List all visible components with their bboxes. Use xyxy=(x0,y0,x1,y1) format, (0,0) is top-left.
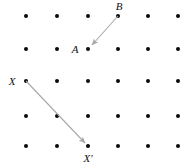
lattice-dot xyxy=(176,144,180,148)
vector-b-to-a xyxy=(92,16,118,45)
lattice-dot xyxy=(176,79,180,83)
lattice-dot xyxy=(146,79,150,83)
vector-x-to-xprime xyxy=(26,81,85,143)
lattice-dot xyxy=(24,114,28,118)
lattice-translation-figure: B A X X′ xyxy=(0,0,196,166)
lattice-dot xyxy=(86,114,90,118)
lattice-row xyxy=(24,144,180,148)
lattice-dot xyxy=(116,144,120,148)
lattice-dot xyxy=(146,114,150,118)
lattice-dot xyxy=(55,47,59,51)
lattice-dot xyxy=(86,14,90,18)
label-x: X xyxy=(8,75,17,87)
lattice-dot xyxy=(146,14,150,18)
lattice-dot xyxy=(116,79,120,83)
lattice-dot xyxy=(24,47,28,51)
lattice-dot xyxy=(176,47,180,51)
lattice-dot xyxy=(176,114,180,118)
lattice-dot xyxy=(176,14,180,18)
lattice-dot xyxy=(55,14,59,18)
lattice-row xyxy=(24,14,180,18)
lattice-row xyxy=(24,47,180,51)
lattice-dot xyxy=(116,114,120,118)
lattice-dot-x-prime xyxy=(86,144,90,148)
lattice-dot xyxy=(116,47,120,51)
lattice-row xyxy=(24,79,180,83)
lattice-dot xyxy=(86,79,90,83)
lattice-dot xyxy=(55,79,59,83)
label-x-prime: X′ xyxy=(82,152,93,164)
label-b: B xyxy=(116,0,123,12)
lattice-row xyxy=(24,114,180,118)
lattice-dot-a xyxy=(86,47,90,51)
lattice-dot xyxy=(146,144,150,148)
label-a: A xyxy=(71,43,79,55)
lattice-dot xyxy=(146,47,150,51)
lattice-dot xyxy=(24,14,28,18)
lattice-dot xyxy=(55,144,59,148)
lattice-dot xyxy=(24,144,28,148)
figure-canvas: B A X X′ xyxy=(0,0,196,166)
